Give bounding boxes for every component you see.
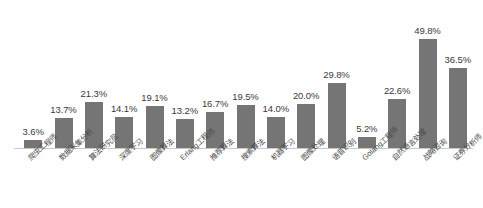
bar-group[interactable]: 13.2% <box>170 0 200 148</box>
bar-group[interactable]: 14.1% <box>109 0 139 148</box>
bar-group[interactable]: 16.7% <box>200 0 230 148</box>
bar-group[interactable]: 14.0% <box>261 0 291 148</box>
bar-group[interactable]: 49.8% <box>413 0 443 148</box>
bar-group[interactable]: 5.2% <box>352 0 382 148</box>
bar-group[interactable]: 13.7% <box>49 0 79 148</box>
bar-group[interactable]: 21.3% <box>79 0 109 148</box>
bar-value-label: 36.5% <box>435 54 481 65</box>
bar[interactable] <box>328 83 346 148</box>
bar[interactable] <box>449 68 467 148</box>
x-axis-labels: 爬虫工程师数据采集分析算法研究员深度学习图像算法Erlang工程师推荐算法搜索算… <box>0 150 483 208</box>
bar-group[interactable]: 19.5% <box>231 0 261 148</box>
plot-area: 3.6%13.7%21.3%14.1%19.1%13.2%16.7%19.5%1… <box>0 0 483 152</box>
bar-group[interactable]: 36.5% <box>443 0 473 148</box>
bar-group[interactable]: 22.6% <box>382 0 412 148</box>
bar-chart: 3.6%13.7%21.3%14.1%19.1%13.2%16.7%19.5%1… <box>0 0 483 208</box>
bar-group[interactable]: 19.1% <box>140 0 170 148</box>
bar-group[interactable]: 3.6% <box>18 0 48 148</box>
bars-layer: 3.6%13.7%21.3%14.1%19.1%13.2%16.7%19.5%1… <box>0 0 483 148</box>
